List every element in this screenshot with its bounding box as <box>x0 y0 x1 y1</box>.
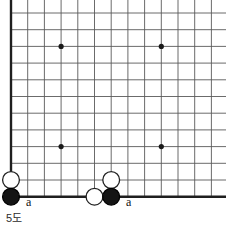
white-stone[interactable] <box>86 188 103 205</box>
star-point <box>159 44 164 49</box>
black-stone[interactable] <box>103 188 120 205</box>
point-label-a-left: a <box>26 196 31 208</box>
figure-caption: 5도 <box>6 213 22 224</box>
go-board[interactable] <box>0 0 226 228</box>
black-stone[interactable] <box>3 188 20 205</box>
star-point <box>159 144 164 149</box>
go-diagram-figure: a a 5도 <box>0 0 226 228</box>
star-point <box>59 44 64 49</box>
white-stone[interactable] <box>103 172 120 189</box>
white-stone[interactable] <box>3 172 20 189</box>
board-grid <box>11 0 226 197</box>
point-label-a-right: a <box>126 196 131 208</box>
star-point <box>59 144 64 149</box>
